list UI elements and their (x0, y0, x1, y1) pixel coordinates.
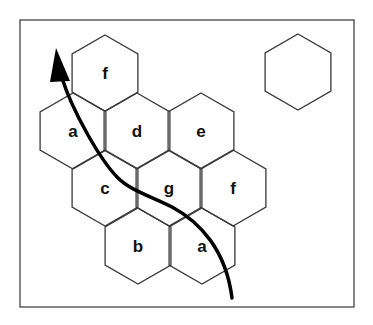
hex-diagram: fadecgfba (0, 0, 373, 325)
hex-label: g (164, 179, 174, 198)
hex-label: f (230, 179, 236, 198)
hex-label: f (102, 64, 108, 83)
standalone-hex (265, 34, 331, 110)
empty-hex (265, 34, 331, 110)
arrowhead-icon (50, 48, 70, 82)
hex-label: e (196, 122, 205, 141)
hex-grid: fadecgfba (40, 35, 266, 284)
hex-label: c (100, 179, 109, 198)
hex-label: d (132, 122, 142, 141)
hex-label: b (133, 237, 143, 256)
diagram-frame (20, 20, 354, 307)
hex-label: a (197, 237, 207, 256)
curved-arrow (62, 78, 232, 298)
hex-label: a (68, 122, 78, 141)
